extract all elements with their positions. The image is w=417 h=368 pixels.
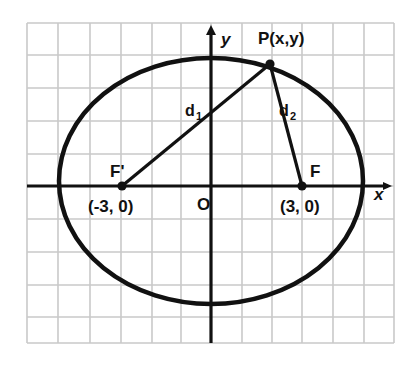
focus-right-label: F: [310, 162, 320, 181]
y-axis-label: y: [220, 30, 232, 49]
focus-right-dot: [297, 181, 306, 190]
focus-left-coordinate-label: (-3, 0): [88, 197, 133, 216]
point-p-dot: [265, 59, 274, 68]
origin-label: O: [197, 195, 210, 214]
ellipse-diagram-figure: P(x,y) y x O F' (-3, 0) F (3, 0) d 1 d 2: [0, 0, 417, 368]
segment-d2-label-base: d: [279, 102, 289, 119]
diagram-canvas: P(x,y) y x O F' (-3, 0) F (3, 0) d 1 d 2: [0, 0, 417, 368]
point-p-label: P(x,y): [258, 29, 304, 48]
focus-right-coordinate-label: (3, 0): [280, 197, 320, 216]
focus-left-label: F': [110, 162, 124, 181]
segment-d1-label-base: d: [185, 102, 195, 119]
segment-d1-label-subscript: 1: [196, 110, 202, 122]
focus-left-dot: [117, 181, 126, 190]
segment-d2-label-subscript: 2: [290, 110, 296, 122]
x-axis-label: x: [373, 185, 385, 204]
